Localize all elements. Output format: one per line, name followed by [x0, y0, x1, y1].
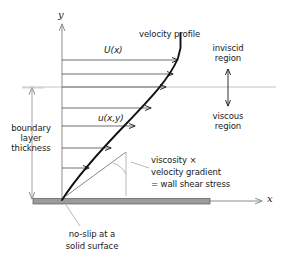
- wall-tangent-line: [66, 152, 126, 196]
- y-axis-label: y: [58, 9, 64, 20]
- tangent-angle-arc: [113, 163, 126, 174]
- no-slip-label-line2: solid surface: [40, 241, 144, 251]
- shear-stress-label-line2: velocity gradient: [151, 167, 221, 177]
- boundary-layer-diagram: y x velocity profile U(x) u(x,y) invisci…: [0, 0, 282, 260]
- shear-stress-label-line1: viscosity ×: [151, 155, 197, 165]
- viscous-region-label-line2: region: [198, 121, 258, 131]
- boundary-layer-thickness-label-line1: boundary: [0, 123, 62, 133]
- local-velocity-label: u(x,y): [98, 113, 124, 123]
- inviscid-region-label-line2: region: [198, 53, 258, 63]
- x-axis-label: x: [267, 193, 273, 204]
- viscous-region-label-line1: viscous: [198, 111, 258, 121]
- shear-stress-leader-line: [131, 162, 149, 168]
- boundary-layer-thickness-label-line2: layer: [0, 133, 62, 143]
- solid-surface-wall: [33, 199, 210, 205]
- shear-stress-label-line3: = wall shear stress: [151, 179, 230, 189]
- no-slip-label-line1: no-slip at a: [40, 229, 144, 239]
- inviscid-region-label-line1: inviscid: [198, 43, 258, 53]
- velocity-profile-label: velocity profile: [139, 29, 200, 39]
- free-stream-velocity-label: U(x): [104, 45, 123, 55]
- boundary-layer-thickness-label-line3: thickness: [0, 143, 62, 153]
- no-slip-leader-line: [66, 205, 80, 226]
